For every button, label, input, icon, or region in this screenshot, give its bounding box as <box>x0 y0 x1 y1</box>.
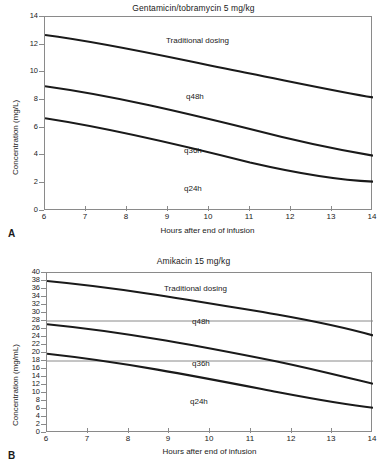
panel-a-xtickmark-7 <box>85 206 86 211</box>
panel-a-ytick-2: 2 <box>18 178 38 186</box>
panel-a-x-axis-label: Hours after end of infusion <box>14 226 387 235</box>
panel-a-xtick-7: 7 <box>75 213 95 221</box>
panel-b-xtickmark-12 <box>291 428 292 433</box>
panel-a-curve-q48h <box>45 86 373 155</box>
panel-b-xtickmark-7 <box>87 428 88 433</box>
panel-a-ytick-14: 14 <box>14 12 38 20</box>
panel-b-ytick-30: 30 <box>16 308 40 316</box>
panel-b-ytickmark-0 <box>41 432 46 433</box>
panel-a-xtickmark-12 <box>290 206 291 211</box>
panel-a-xtick-9: 9 <box>157 213 177 221</box>
panel-b-ytick-40: 40 <box>16 268 40 276</box>
panel-a-xtick-8: 8 <box>116 213 136 221</box>
panel-b-xtick-12: 12 <box>281 435 301 443</box>
panel-b-ytick-24: 24 <box>16 332 40 340</box>
panel-b-title: Amikacin 15 mg/kg <box>0 256 387 266</box>
panel-a-title: Gentamicin/tobramycin 5 mg/kg <box>0 3 387 13</box>
panel-b-xtick-13: 13 <box>321 435 341 443</box>
panel-b-xtick-14: 14 <box>362 435 382 443</box>
panel-a-label-q48h: q48h <box>186 92 204 101</box>
panel-b-letter: B <box>8 450 15 461</box>
panel-a-ytick-4: 4 <box>18 150 38 158</box>
panel-a-ytick-8: 8 <box>18 95 38 103</box>
panel-a-xtick-13: 13 <box>321 213 341 221</box>
panel-b-plot-area <box>46 272 372 432</box>
panel-b-curve-q36h <box>47 354 373 408</box>
panel-b-ytick-36: 36 <box>16 284 40 292</box>
panel-a-label-q24h: q24h <box>184 184 202 193</box>
panel-a-xtickmark-13 <box>331 206 332 211</box>
panel-b-ytick-6: 6 <box>20 404 40 412</box>
panel-a-xtick-6: 6 <box>34 213 54 221</box>
panel-a-xtickmark-8 <box>126 206 127 211</box>
panel-b-xtick-7: 7 <box>77 435 97 443</box>
panel-b-ytick-10: 10 <box>16 388 40 396</box>
panel-b-ytick-12: 12 <box>16 380 40 388</box>
panel-b-xtick-6: 6 <box>36 435 56 443</box>
panel-b-ytick-18: 18 <box>16 356 40 364</box>
panel-a-letter: A <box>8 228 15 239</box>
panel-b-ytick-34: 34 <box>16 292 40 300</box>
panel-b-xtick-8: 8 <box>118 435 138 443</box>
panel-b-xtickmark-11 <box>250 428 251 433</box>
panel-b-xtick-9: 9 <box>158 435 178 443</box>
panel-b-x-axis-label: Hours after end of infusion <box>16 447 387 456</box>
panel-a-plot-area <box>44 16 372 210</box>
panel-b: Amikacin 15 mg/kg Concentration (mg/mL) … <box>0 240 387 465</box>
panel-b-xtickmark-10 <box>209 428 210 433</box>
panel-b-ytick-32: 32 <box>16 300 40 308</box>
panel-b-ytick-4: 4 <box>20 412 40 420</box>
panel-a-label-q36h: q36h <box>184 146 202 155</box>
panel-b-label-traditional: Traditional dosing <box>164 284 227 293</box>
panel-a-y-axis-label: Concentration (mg/L) <box>11 100 20 175</box>
panel-b-xtickmark-8 <box>128 428 129 433</box>
panel-a-label-traditional: Traditional dosing <box>166 36 229 45</box>
panel-b-label-q48h: q48h <box>192 317 210 326</box>
panel-a-curves <box>45 17 373 211</box>
panel-a-xtickmark-10 <box>208 206 209 211</box>
panel-a-xtick-14: 14 <box>362 213 382 221</box>
panel-a: Gentamicin/tobramycin 5 mg/kg Concentrat… <box>0 0 387 240</box>
panel-b-curves <box>47 273 373 433</box>
panel-b-xtickmark-9 <box>168 428 169 433</box>
panel-b-ytick-26: 26 <box>16 324 40 332</box>
panel-b-curve-q48h <box>47 324 373 384</box>
panel-b-ytick-38: 38 <box>16 276 40 284</box>
panel-a-xtickmark-9 <box>167 206 168 211</box>
panel-a-xtick-11: 11 <box>239 213 259 221</box>
panel-b-xtick-11: 11 <box>240 435 260 443</box>
panel-b-ytick-28: 28 <box>16 316 40 324</box>
panel-b-xtickmark-13 <box>331 428 332 433</box>
panel-a-xtick-12: 12 <box>280 213 300 221</box>
panel-a-ytickmark-0 <box>39 210 44 211</box>
panel-b-ytick-14: 14 <box>16 372 40 380</box>
panel-a-ytick-6: 6 <box>18 123 38 131</box>
panel-a-ytick-12: 12 <box>14 40 38 48</box>
panel-b-ytick-2: 2 <box>20 420 40 428</box>
panel-b-ytick-16: 16 <box>16 364 40 372</box>
panel-a-curve-q36h <box>45 118 373 181</box>
panel-a-xtickmark-11 <box>249 206 250 211</box>
panel-b-ytick-20: 20 <box>16 348 40 356</box>
panel-b-ytick-8: 8 <box>20 396 40 404</box>
panel-a-xtick-10: 10 <box>198 213 218 221</box>
panel-b-label-q36h: q36h <box>192 359 210 368</box>
panel-b-label-q24h: q24h <box>190 397 208 406</box>
panel-b-ytick-22: 22 <box>16 340 40 348</box>
panel-a-ytick-10: 10 <box>14 67 38 75</box>
panel-b-xtick-10: 10 <box>199 435 219 443</box>
